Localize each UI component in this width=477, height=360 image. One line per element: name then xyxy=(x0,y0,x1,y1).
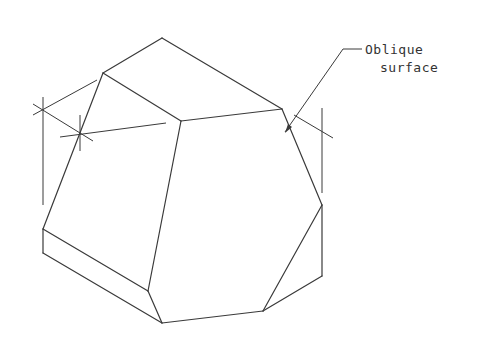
annotation-surface: surface xyxy=(380,61,438,74)
edge xyxy=(103,73,181,121)
annotation-oblique: Oblique xyxy=(365,43,423,56)
edge xyxy=(148,121,181,291)
edge xyxy=(162,38,282,109)
edge xyxy=(263,276,322,311)
edge xyxy=(263,205,322,311)
edge xyxy=(181,109,282,121)
edge xyxy=(43,73,103,229)
extension-lines xyxy=(33,80,333,205)
leader-line xyxy=(285,49,362,132)
extension-line xyxy=(294,115,333,138)
edge xyxy=(282,109,322,205)
leader-polyline xyxy=(285,49,362,132)
edge xyxy=(103,38,162,73)
object-edges xyxy=(43,38,322,323)
edge xyxy=(162,311,263,323)
edge xyxy=(43,229,148,291)
